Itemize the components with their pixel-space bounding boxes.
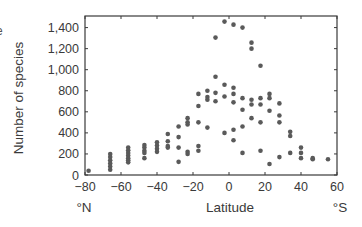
data-point — [213, 35, 218, 40]
y-tick-label: 200 — [58, 147, 79, 161]
data-point — [222, 94, 227, 99]
data-point — [258, 96, 263, 101]
data-points — [86, 19, 330, 173]
data-point — [240, 124, 245, 129]
data-point — [176, 135, 181, 140]
data-point — [213, 74, 218, 79]
data-point — [205, 97, 210, 102]
data-point — [277, 113, 282, 118]
data-point — [231, 22, 236, 27]
data-point — [185, 122, 190, 127]
x-tick-label: 0 — [226, 180, 233, 194]
data-point — [231, 138, 236, 143]
data-point — [277, 155, 282, 160]
data-point — [240, 96, 245, 101]
data-point — [249, 46, 254, 51]
data-point — [277, 101, 282, 106]
data-point — [166, 145, 171, 150]
data-point — [176, 145, 181, 150]
data-point — [213, 99, 218, 104]
data-point — [196, 144, 201, 149]
data-point — [249, 102, 254, 107]
data-point — [267, 108, 272, 113]
data-point — [205, 88, 210, 93]
y-axis: 02004006008001,0001,2001,400 — [48, 21, 337, 182]
data-point — [258, 120, 263, 125]
y-tick-label: 1,000 — [48, 63, 79, 77]
north-label: °N — [76, 200, 91, 215]
data-point — [166, 139, 171, 144]
data-point — [231, 127, 236, 132]
data-point — [196, 120, 201, 125]
data-point — [86, 168, 91, 173]
data-point — [185, 116, 190, 121]
data-point — [299, 151, 304, 156]
x-tick-label: −60 — [110, 180, 131, 194]
x-axis: −80−60−40−200204060 — [74, 16, 344, 194]
y-tick-label: 400 — [58, 126, 79, 140]
data-point — [222, 131, 227, 136]
y-axis-title: Number of species — [11, 41, 26, 154]
data-point — [196, 92, 201, 97]
x-tick-label: −40 — [146, 180, 167, 194]
data-point — [222, 82, 227, 87]
x-tick-label: 20 — [258, 180, 272, 194]
data-point — [126, 160, 131, 165]
y-tick-label: 1,200 — [48, 42, 79, 56]
scatter-chart: −80−60−40−200204060 02004006008001,0001,… — [0, 0, 362, 227]
data-point — [142, 156, 147, 161]
y-tick-label: 800 — [58, 84, 79, 98]
data-point — [196, 104, 201, 109]
data-point — [267, 162, 272, 167]
data-point — [166, 132, 171, 137]
x-tick-label: 60 — [330, 180, 344, 194]
data-point — [231, 92, 236, 97]
data-point — [277, 120, 282, 125]
data-point — [205, 125, 210, 130]
data-point — [222, 19, 227, 24]
data-point — [108, 167, 113, 172]
y-tick-label: 600 — [58, 105, 79, 119]
x-tick-label: 40 — [294, 180, 308, 194]
data-point — [231, 100, 236, 105]
data-point — [155, 150, 160, 155]
south-label: °S — [333, 200, 347, 215]
data-point — [299, 145, 304, 150]
y-tick-label: 0 — [72, 169, 79, 183]
data-point — [326, 157, 331, 162]
data-point — [196, 148, 201, 153]
data-point — [288, 130, 293, 135]
data-point — [142, 151, 147, 156]
y-tick-label: 1,400 — [48, 21, 79, 35]
data-point — [267, 92, 272, 97]
data-point — [213, 91, 218, 96]
data-point — [176, 160, 181, 165]
data-point — [176, 124, 181, 129]
data-point — [299, 156, 304, 161]
data-point — [258, 148, 263, 153]
data-point — [288, 151, 293, 156]
data-point — [310, 157, 315, 162]
data-point — [240, 25, 245, 30]
x-axis-title: Latitude — [206, 200, 254, 215]
plot-frame — [85, 16, 337, 175]
data-point — [258, 63, 263, 68]
data-point — [258, 102, 263, 107]
data-point — [288, 134, 293, 139]
data-point — [185, 152, 190, 157]
data-point — [240, 107, 245, 112]
data-point — [249, 40, 254, 45]
data-point — [267, 96, 272, 101]
x-tick-label: −20 — [182, 180, 203, 194]
data-point — [231, 86, 236, 91]
data-point — [249, 97, 254, 102]
data-point — [249, 116, 254, 121]
data-point — [240, 151, 245, 156]
